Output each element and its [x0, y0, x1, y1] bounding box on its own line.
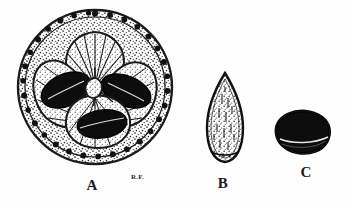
- botanical-plate: A B C R.F.: [0, 0, 346, 205]
- artist-initials: R.F.: [131, 173, 144, 181]
- figure-label-c: C: [298, 165, 314, 180]
- figure-a-transverse-section: [14, 6, 176, 171]
- figure-b-seed-lateral: [198, 70, 252, 166]
- figure-label-a: A: [84, 178, 100, 193]
- figure-c-seed-end-view: [272, 108, 334, 158]
- figure-label-b: B: [215, 176, 231, 191]
- seed-b-surface: [198, 70, 252, 166]
- locule-lower-with-seed: [66, 96, 130, 148]
